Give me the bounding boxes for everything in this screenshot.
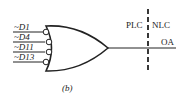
input-label-3: ~D11 xyxy=(14,42,34,52)
output-label: OA xyxy=(161,37,174,47)
figure-caption: (b) xyxy=(62,83,73,93)
plc-label: PLC xyxy=(126,20,143,30)
input-label-1: ~D1 xyxy=(14,22,30,32)
logic-diagram: ~D1 ~D4 ~D11 ~D13 PLC NLC OA (b) xyxy=(0,0,185,102)
inversion-bubble-3 xyxy=(46,49,52,55)
inversion-bubble-4 xyxy=(43,59,49,65)
or-gate-body xyxy=(46,26,108,71)
nlc-label: NLC xyxy=(152,20,170,30)
inversion-bubble-2 xyxy=(46,39,52,45)
input-label-4: ~D13 xyxy=(14,52,35,62)
inversion-bubble-1 xyxy=(43,29,49,35)
input-label-2: ~D4 xyxy=(14,32,30,42)
